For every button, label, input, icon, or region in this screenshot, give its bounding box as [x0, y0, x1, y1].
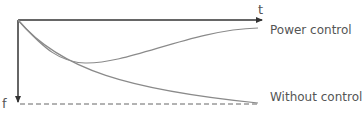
power-control-curve [18, 20, 258, 63]
without-control-label: Without control [270, 90, 362, 104]
without-control-curve [18, 20, 258, 103]
power-control-label: Power control [270, 23, 352, 37]
y-axis-label: f [2, 96, 7, 111]
x-axis-label: t [258, 2, 263, 17]
